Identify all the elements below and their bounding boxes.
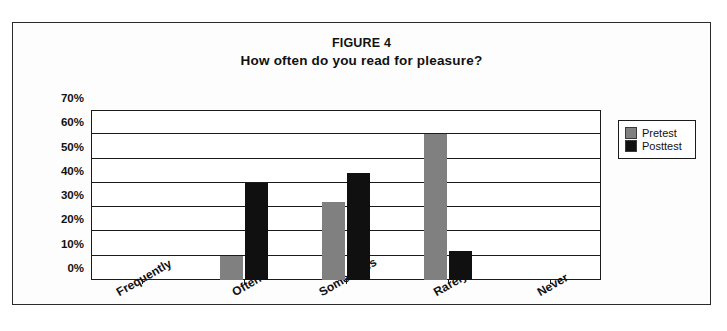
x-axis-category-sometimes: Sometimes [295,281,397,329]
y-axis-tick-label: 50% [61,141,84,153]
x-axis-tick-mark [244,280,245,284]
bar-pretest-sometimes [322,202,345,280]
legend-label-posttest: Posttest [642,140,682,152]
legend-item-pretest: Pretest [625,127,689,139]
legend-swatch-pretest-icon [625,127,637,139]
figure-frame: FIGURE 4 How often do you read for pleas… [12,22,711,305]
y-axis-tick-label: 10% [61,238,84,250]
y-axis-tick-label: 30% [61,189,84,201]
x-axis-category-labels: FrequentlyOftenSometimesRarelyNever [91,281,601,329]
y-axis-tick-label: 60% [61,116,84,128]
legend-item-posttest: Posttest [625,140,689,152]
bar-group [397,110,499,280]
figure-number-title: FIGURE 4 [13,35,710,52]
chart-subtitle: How often do you read for pleasure? [13,52,710,70]
x-axis-tick-mark [448,280,449,284]
x-axis-category-frequently: Frequently [91,281,193,329]
x-axis-category-often: Often [193,281,295,329]
chart-legend: Pretest Posttest [618,120,696,159]
y-axis-tick-label: 70% [61,92,84,104]
bar-posttest-rarely [449,251,472,280]
chart-title-block: FIGURE 4 How often do you read for pleas… [13,35,710,70]
y-axis-tick-label: 0% [67,262,84,274]
bar-posttest-often [245,183,268,280]
legend-label-pretest: Pretest [642,127,677,139]
bar-group [91,110,193,280]
y-axis-tick-label: 20% [61,213,84,225]
bar-group [295,110,397,280]
bar-pretest-often [220,256,243,280]
bar-group [193,110,295,280]
bar-group [499,110,601,280]
x-axis-tick-mark [142,280,143,284]
plot-wrap: 70%60%50%40%30%20%10%0% [91,110,601,280]
x-axis-category-rarely: Rarely [397,281,499,329]
x-axis-tick-mark [550,280,551,284]
bars-layer [91,110,601,280]
y-axis-tick-label: 40% [61,165,84,177]
legend-swatch-posttest-icon [625,140,637,152]
x-axis-tick-mark [346,280,347,284]
x-axis-category-never: Never [499,281,601,329]
bar-pretest-rarely [424,134,447,280]
bar-posttest-sometimes [347,173,370,280]
